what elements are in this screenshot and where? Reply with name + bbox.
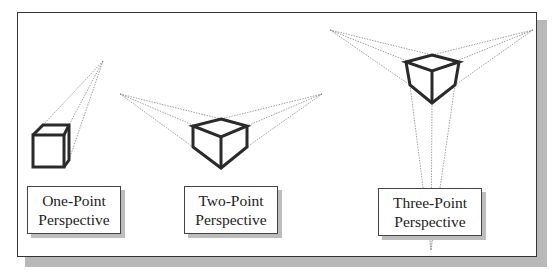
three-point-label-line2: Perspective [394,212,465,231]
one-point-label-line2: Perspective [38,210,109,229]
three-point-cube [406,55,459,103]
one-point-construction-lines [43,61,103,160]
two-point-label-line1: Two-Point [198,191,263,210]
three-point-label: Three-Point Perspective [378,188,482,236]
one-point-cube [33,125,69,167]
one-point-label: One-Point Perspective [27,186,121,234]
two-point-label-line2: Perspective [195,210,266,229]
two-point-cube [193,119,247,168]
three-point-label-line1: Three-Point [393,193,467,212]
two-point-label: Two-Point Perspective [184,186,278,234]
one-point-label-line1: One-Point [42,191,106,210]
